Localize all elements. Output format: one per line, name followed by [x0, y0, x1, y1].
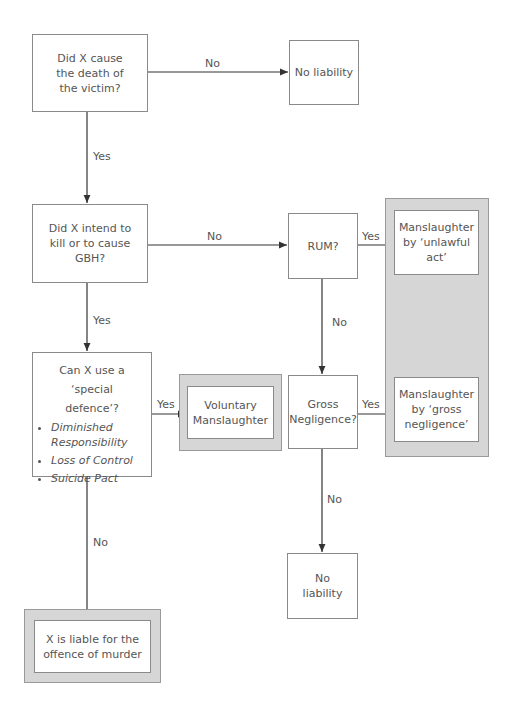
edge-label-rum-yes: Yes: [362, 230, 380, 243]
edge-label-defence-yes: Yes: [157, 398, 175, 411]
no-liability-box-2: No liability: [287, 553, 358, 619]
node-text: Did X cause the death of the victim?: [47, 51, 133, 96]
node-text: Manslaughter by ‘gross negligence’: [399, 387, 474, 432]
edge-label-cause-no: No: [205, 57, 220, 70]
edge-label-gross-no: No: [327, 493, 342, 506]
voluntary-manslaughter: Voluntary Manslaughter: [187, 386, 274, 439]
edge-label-defence-no: No: [93, 536, 108, 549]
node-text: Manslaughter by ‘unlawful act’: [399, 220, 474, 265]
defence-item: Suicide Pact: [51, 471, 151, 486]
node-text: No liability: [302, 571, 343, 601]
murder-liability: X is liable for the offence of murder: [34, 620, 151, 673]
no-liability-box-1: No liability: [289, 40, 359, 105]
manslaughter-unlawful-act: Manslaughter by ‘unlawful act’: [394, 210, 479, 275]
edge-label-intend-no: No: [207, 230, 222, 243]
question-rum: RUM?: [288, 213, 358, 279]
node-text: No liability: [295, 65, 353, 80]
edge-label-cause-yes: Yes: [93, 150, 111, 163]
node-text: Did X intend to kill or to cause GBH?: [47, 221, 133, 266]
manslaughter-gross-negligence: Manslaughter by ‘gross negligence’: [394, 377, 479, 442]
question-gross-negligence: Gross Negligence?: [288, 375, 358, 449]
node-text: X is liable for the offence of murder: [41, 632, 144, 662]
edge-label-gross-yes: Yes: [362, 398, 380, 411]
question-intend-kill: Did X intend to kill or to cause GBH?: [32, 204, 148, 283]
question-special-defence: Can X use a ‘special defence’? Diminishe…: [32, 352, 152, 477]
node-text: Voluntary Manslaughter: [188, 398, 273, 428]
defence-item: Diminished Responsibility: [51, 420, 151, 450]
node-text: RUM?: [307, 239, 338, 254]
edge-label-rum-no: No: [332, 316, 347, 329]
node-text: Can X use a ‘special defence’?: [33, 361, 151, 418]
defence-item: Loss of Control: [51, 453, 151, 468]
edge-label-intend-yes: Yes: [93, 314, 111, 327]
node-text: Gross Negligence?: [289, 397, 357, 427]
question-cause-death: Did X cause the death of the victim?: [32, 34, 148, 112]
defence-list: Diminished Responsibility Loss of Contro…: [33, 420, 151, 489]
